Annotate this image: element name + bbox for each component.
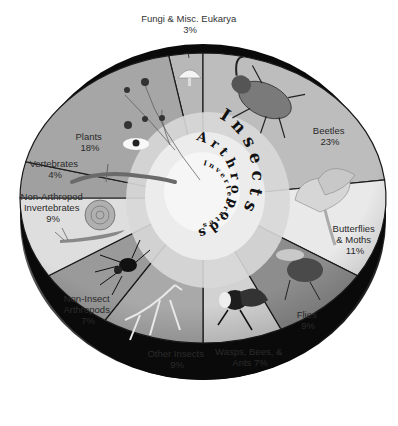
biodiversity-pie-chart: I n s e c t s A r t h r o p o d s I n v … <box>0 0 398 426</box>
label-fungi: Fungi & Misc. Eukarya 3% <box>141 13 239 35</box>
